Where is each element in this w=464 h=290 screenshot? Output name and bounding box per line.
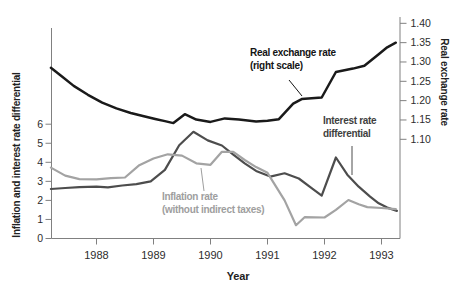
inflation-pointer-line: [201, 168, 204, 191]
right-axis-tick-label: 1.30: [411, 55, 432, 67]
annotation-inflation-line2: (without indirect taxes): [162, 204, 264, 217]
x-axis-tick-label: 1989: [141, 249, 165, 261]
annotation-interest-rate-differential: Interest rate differential: [323, 115, 376, 140]
left-axis-tick-label: 2: [37, 194, 43, 206]
right-axis-tick-label: 1.25: [411, 75, 432, 87]
x-axis-tick-label: 1991: [255, 249, 279, 261]
left-axis-tick-label: 3: [37, 175, 43, 187]
x-axis-tick-label: 1988: [84, 249, 108, 261]
x-axis-tick-label: 1993: [369, 249, 393, 261]
right-axis-tick-label: 1.20: [411, 94, 432, 106]
right-axis-title: Real exchange rate: [439, 38, 450, 126]
right-axis-tick-label: 1.35: [411, 36, 432, 48]
annotation-real-exchange-rate-line1: Real exchange rate: [250, 47, 336, 60]
annotation-real-exchange-rate-line2: (right scale): [250, 60, 336, 73]
left-axis-tick-label: 5: [37, 137, 43, 149]
real-exchange-pointer-line: [289, 80, 302, 96]
series-line-real-exchange-rate-right-scale: [51, 43, 396, 123]
annotation-interest-line2: differential: [323, 128, 376, 141]
right-axis-tick-label: 1.10: [411, 133, 432, 145]
annotation-inflation-rate: Inflation rate (without indirect taxes): [162, 191, 264, 216]
right-axis-tick-label: 1.40: [411, 17, 432, 29]
left-axis-tick-label: 0: [37, 232, 43, 244]
annotation-real-exchange-rate: Real exchange rate (right scale): [250, 47, 336, 72]
left-axis-tick-label: 1: [37, 213, 43, 225]
right-axis-tick-label: 1.15: [411, 113, 432, 125]
x-axis-title: Year: [227, 270, 249, 282]
left-axis-tick-label: 6: [37, 118, 43, 130]
left-axis-title: Inflation and interest rate differential: [11, 72, 22, 237]
annotation-inflation-line1: Inflation rate: [162, 191, 264, 204]
left-axis-tick-label: 4: [37, 156, 43, 168]
chart-canvas: 01234561.101.151.201.251.301.351.4019881…: [0, 0, 464, 290]
chart-figure: 01234561.101.151.201.251.301.351.4019881…: [0, 0, 464, 290]
x-axis-tick-label: 1992: [312, 249, 336, 261]
x-axis-tick-label: 1990: [198, 249, 222, 261]
annotation-interest-line1: Interest rate: [323, 115, 376, 128]
